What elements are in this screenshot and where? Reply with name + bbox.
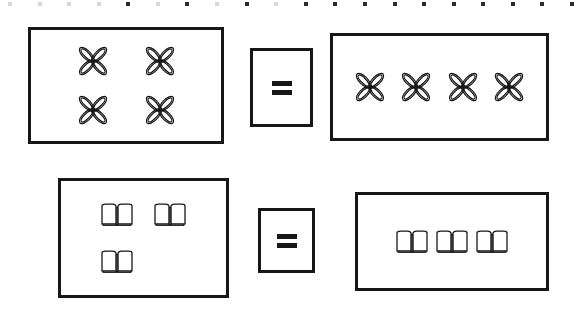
perforation-mark [126,2,130,6]
top-edge-perforation [0,0,578,10]
flower-icon [489,67,529,107]
book-item [435,228,469,256]
flower-icon [73,41,113,81]
row-2-left-group-box[interactable] [58,178,229,298]
row-2-equals-box[interactable] [258,208,315,273]
book-item [475,228,509,256]
row-2-right-items [358,195,546,288]
flower-icon [140,90,180,130]
equals-sign-icon [277,234,297,248]
empty-slot [144,248,197,276]
book-icon [395,228,429,256]
book-icon [100,248,134,276]
perforation-mark [540,2,544,6]
flower-item [59,41,126,81]
perforation-mark [511,2,515,6]
perforation-mark [570,2,574,6]
flower-item [126,41,193,81]
perforation-mark [481,2,485,6]
book-icon [153,201,187,229]
perforation-mark [393,2,397,6]
perforation-mark [304,2,308,6]
flower-item [350,67,390,107]
row-2-right-group-box[interactable] [355,192,549,291]
perforation-mark [452,2,456,6]
book-item [91,248,144,276]
equals-sign-icon [272,81,292,95]
perforation-mark [67,2,71,6]
book-icon [475,228,509,256]
book-item [144,201,197,229]
flower-icon [73,90,113,130]
row-1-left-items [31,30,221,141]
flower-item [443,67,483,107]
perforation-mark [215,2,219,6]
flower-item [126,90,193,130]
perforation-mark [38,2,42,6]
flower-item [489,67,529,107]
book-icon [435,228,469,256]
perforation-mark [363,2,367,6]
flower-icon [396,67,436,107]
flower-icon [443,67,483,107]
flower-icon [140,41,180,81]
perforation-mark [97,2,101,6]
row-1-right-group-box[interactable] [330,33,549,141]
flower-item [396,67,436,107]
flower-icon [350,67,390,107]
worksheet-page [0,0,578,316]
book-icon [100,201,134,229]
book-item [395,228,429,256]
row-1-right-items [333,36,546,138]
perforation-mark [274,2,278,6]
flower-item [59,90,126,130]
row-2-left-items [61,181,226,295]
perforation-mark [8,2,12,6]
perforation-mark [422,2,426,6]
perforation-mark [245,2,249,6]
perforation-mark [185,2,189,6]
row-1-equals-box[interactable] [250,48,313,127]
perforation-mark [333,2,337,6]
row-1-left-group-box[interactable] [28,27,224,144]
perforation-mark [156,2,160,6]
book-item [91,201,144,229]
